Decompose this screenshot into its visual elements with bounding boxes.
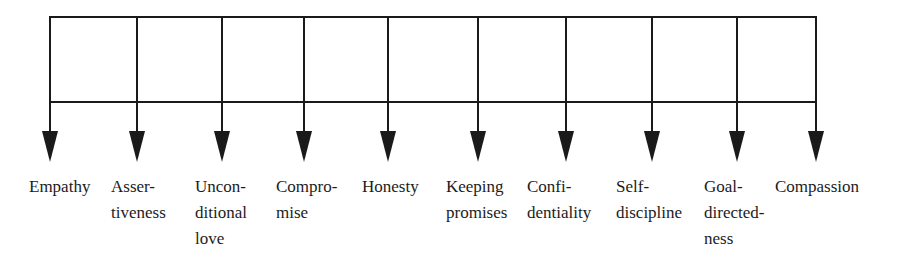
arrow-down-icon	[729, 131, 745, 162]
arrow-down-icon	[42, 131, 58, 162]
branch-label-line: dentiality	[527, 200, 591, 226]
branch-label-line: mise	[276, 200, 337, 226]
branch-label-line: Self-	[616, 174, 682, 200]
branch-label-line: Uncon-	[195, 174, 247, 200]
branch-label: Keepingpromises	[446, 174, 507, 226]
branch-label-line: discipline	[616, 200, 682, 226]
branch-label-line: Empathy	[29, 174, 90, 200]
arrow-down-icon	[808, 131, 824, 162]
branch-label-line: Honesty	[362, 174, 419, 200]
arrow-down-icon	[129, 131, 145, 162]
branch-label: Honesty	[362, 174, 419, 200]
branch-label-line: Compro-	[276, 174, 337, 200]
branch-label: Goal-directed-ness	[704, 174, 764, 252]
branch-label-line: promises	[446, 200, 507, 226]
branch-label: Uncon-ditionallove	[195, 174, 247, 252]
branch-label-line: tiveness	[111, 200, 166, 226]
arrow-down-icon	[470, 131, 486, 162]
branch-label: Asser-tiveness	[111, 174, 166, 226]
branch-label-line: love	[195, 226, 247, 252]
branch-label-line: Goal-	[704, 174, 764, 200]
branch-label-line: ditional	[195, 200, 247, 226]
arrow-down-icon	[296, 131, 312, 162]
branch-label-line: Keeping	[446, 174, 507, 200]
branch-label: Self-discipline	[616, 174, 682, 226]
branch-label-line: Asser-	[111, 174, 166, 200]
branch-label: Empathy	[29, 174, 90, 200]
arrow-down-icon	[558, 131, 574, 162]
branch-label: Compassion	[775, 174, 859, 200]
branch-label: Compro-mise	[276, 174, 337, 226]
branch-label-line: ness	[704, 226, 764, 252]
branch-label-line: Confi-	[527, 174, 591, 200]
arrow-down-icon	[644, 131, 660, 162]
branch-label-line: Compassion	[775, 174, 859, 200]
branch-label-line: directed-	[704, 200, 764, 226]
arrow-down-icon	[214, 131, 230, 162]
arrow-down-icon	[380, 131, 396, 162]
branch-label: Confi-dentiality	[527, 174, 591, 226]
